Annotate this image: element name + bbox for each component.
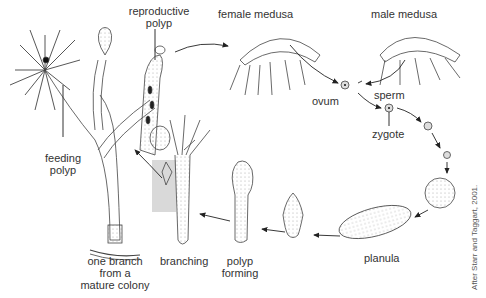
- label-line: feeding: [40, 152, 86, 164]
- label-male-medusa: male medusa: [371, 8, 437, 20]
- label-line: forming: [217, 267, 263, 279]
- blastula-drawing: [425, 178, 455, 208]
- source-credit: After Starr and Taggart, 2001.: [470, 185, 479, 290]
- planula-drawing: [336, 199, 415, 245]
- polyp-forming-drawing: [232, 161, 253, 243]
- label-sperm: sperm: [374, 89, 405, 101]
- female-medusa-drawing: [230, 39, 320, 95]
- label-reproductive-polyp: reproductive polyp: [124, 5, 194, 29]
- life-cycle-illustration: [0, 0, 486, 298]
- label-mature-colony: one branch from a mature colony: [80, 255, 150, 291]
- label-line: polyp: [124, 17, 194, 29]
- label-line: polyp: [40, 164, 86, 176]
- label-line: mature colony: [80, 279, 150, 291]
- label-feeding-polyp: feeding polyp: [40, 152, 86, 176]
- label-zygote: zygote: [372, 128, 404, 140]
- label-branching: branching: [160, 255, 208, 267]
- mature-colony-drawing: [10, 28, 170, 260]
- label-line: polyp: [217, 255, 263, 267]
- early-polyp-drawing: [283, 193, 303, 238]
- sperm-cell: [358, 81, 362, 83]
- cleavage-cell: [424, 122, 432, 130]
- label-line: one branch: [80, 255, 150, 267]
- male-medusa-drawing: [380, 38, 460, 86]
- label-polyp-forming: polyp forming: [217, 255, 263, 279]
- label-ovum: ovum: [312, 95, 339, 107]
- label-line: reproductive: [124, 5, 194, 17]
- label-female-medusa: female medusa: [218, 8, 293, 20]
- label-line: from a: [80, 267, 150, 279]
- label-planula: planula: [364, 252, 399, 264]
